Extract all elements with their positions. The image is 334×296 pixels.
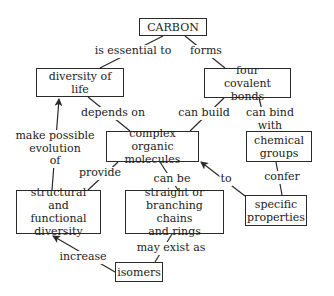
- link-label-can-build: can build: [177, 107, 231, 120]
- node-isomers: isomers: [115, 262, 163, 282]
- node-structural-functional-diversity: structural and functional diversity: [16, 190, 101, 234]
- concept-map: is essential to forms depends on can bui…: [0, 0, 334, 296]
- link-label-increase: increase: [58, 251, 107, 264]
- link-label-make-possible: make possible evolution of: [14, 130, 95, 168]
- link-label-forms: forms: [189, 45, 223, 58]
- node-four-covalent-bonds: four covalent bonds: [204, 68, 291, 98]
- node-diversity-of-life: diversity of life: [36, 68, 124, 97]
- link-label-depends-on: depends on: [80, 107, 146, 120]
- node-chemical-groups: chemical groups: [246, 131, 312, 162]
- node-complex-organic-molecules: complex organic molecules: [106, 131, 199, 162]
- link-label-confer: confer: [263, 171, 301, 184]
- link-label-may-exist-as: may exist as: [136, 242, 207, 255]
- node-specific-properties: specific properties: [245, 195, 307, 226]
- link-label-can-bind-with: can bind with: [238, 107, 302, 132]
- node-chains-and-rings: straight or branching chains and rings: [125, 190, 224, 234]
- link-label-to: to: [219, 173, 232, 186]
- link-label-can-be: can be: [153, 173, 192, 186]
- node-carbon: CARBON: [139, 18, 207, 36]
- link-label-is-essential-to: is essential to: [94, 45, 173, 58]
- link-label-provide: provide: [78, 167, 122, 180]
